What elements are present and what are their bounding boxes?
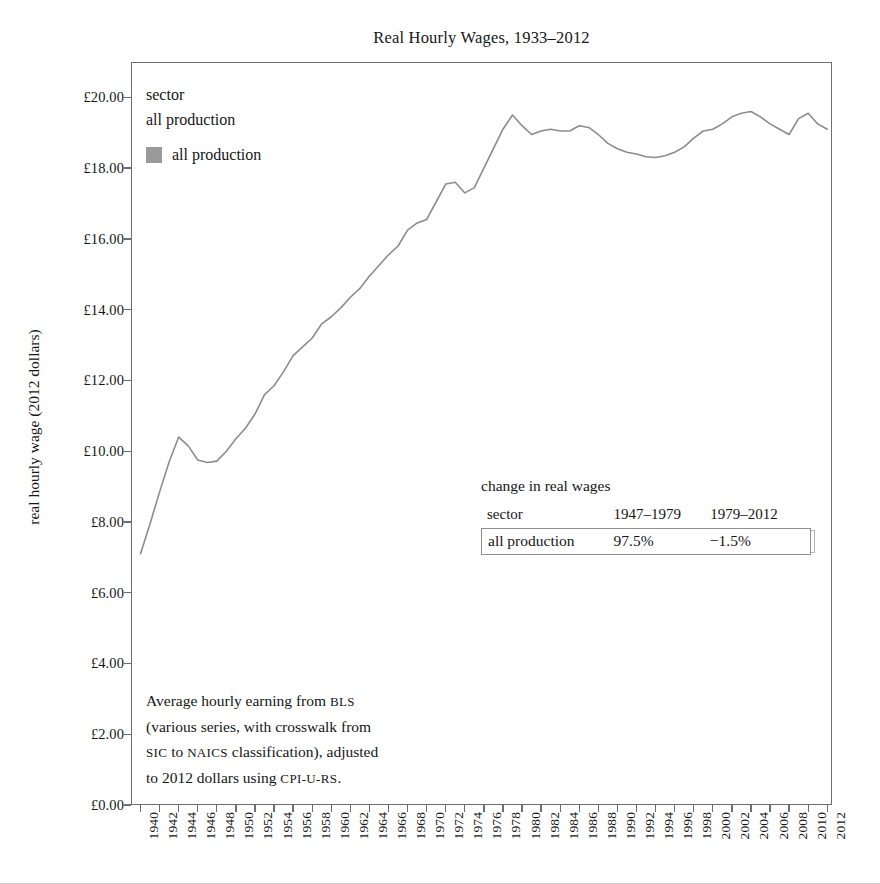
y-tick-mark <box>124 592 131 593</box>
change-table-title: change in real wages <box>481 477 811 495</box>
x-tick-label: 1968 <box>413 812 429 839</box>
x-tick-label: 1940 <box>146 812 162 839</box>
change-table-cell-period-1: 97.5% <box>614 532 710 550</box>
x-tick-mark <box>540 805 541 812</box>
x-tick-label: 1956 <box>299 812 315 839</box>
x-tick-label: 1958 <box>318 812 334 839</box>
y-tick-mark <box>124 380 131 381</box>
y-tick-label: £10.00 <box>46 443 124 460</box>
x-tick-label: 1960 <box>337 812 353 839</box>
y-tick-label: £16.00 <box>46 230 124 247</box>
y-tick-mark <box>124 663 131 664</box>
x-tick-label: 1972 <box>451 812 467 839</box>
y-tick-mark <box>124 309 131 310</box>
source-note-abbr-cpiurs: CPI-U-RS <box>280 771 337 786</box>
y-tick-label: £0.00 <box>46 797 124 814</box>
y-tick-label: £2.00 <box>46 726 124 743</box>
source-note-abbr-bls: BLS <box>330 694 355 709</box>
x-tick-label: 1992 <box>642 812 658 839</box>
x-tick-mark <box>712 805 713 812</box>
source-note-line-3: SIC to NAICS classification), adjusted <box>146 739 496 765</box>
x-tick-label: 1984 <box>566 812 582 839</box>
y-tick-label: £18.00 <box>46 160 124 177</box>
y-tick-label: £14.00 <box>46 301 124 318</box>
x-tick-label: 2008 <box>795 812 811 839</box>
source-note: Average hourly earning from BLS (various… <box>146 688 496 791</box>
x-tick-label: 1980 <box>528 812 544 839</box>
legend-item-all-production[interactable]: all production <box>146 146 406 164</box>
x-tick-mark <box>254 805 255 812</box>
x-tick-mark <box>445 805 446 812</box>
y-tick-mark <box>124 521 131 522</box>
y-tick-label: £8.00 <box>46 513 124 530</box>
x-tick-mark <box>140 805 141 812</box>
y-tick-label: £4.00 <box>46 655 124 672</box>
y-tick-label: £12.00 <box>46 372 124 389</box>
x-tick-label: 1950 <box>241 812 257 839</box>
x-tick-mark <box>693 805 694 812</box>
source-note-line-1: Average hourly earning from BLS <box>146 688 496 714</box>
x-tick-label: 1978 <box>508 812 524 839</box>
x-tick-mark <box>369 805 370 812</box>
x-tick-mark <box>636 805 637 812</box>
x-tick-label: 1970 <box>432 812 448 839</box>
x-tick-mark <box>426 805 427 812</box>
x-tick-label: 1986 <box>585 812 601 839</box>
x-tick-mark <box>674 805 675 812</box>
x-tick-mark <box>331 805 332 812</box>
x-tick-mark <box>560 805 561 812</box>
x-tick-label: 1988 <box>604 812 620 839</box>
y-tick-label: £20.00 <box>46 89 124 106</box>
source-note-line-3-text: classification), adjusted <box>228 743 378 760</box>
x-tick-label: 1948 <box>222 812 238 839</box>
x-tick-mark <box>312 805 313 812</box>
chart-title: Real Hourly Wages, 1933–2012 <box>131 28 832 48</box>
change-table-cell-sector: all production <box>488 532 614 550</box>
x-tick-mark <box>598 805 599 812</box>
x-tick-label: 1952 <box>260 812 276 839</box>
x-tick-mark <box>788 805 789 812</box>
x-tick-label: 2012 <box>833 812 849 839</box>
y-axis-tick-labels: £0.00£2.00£4.00£6.00£8.00£10.00£12.00£14… <box>42 62 124 805</box>
x-tick-label: 1976 <box>489 812 505 839</box>
x-tick-label: 1964 <box>375 812 391 839</box>
x-tick-label: 1982 <box>547 812 563 839</box>
x-tick-mark <box>502 805 503 812</box>
x-tick-label: 2004 <box>756 812 772 839</box>
change-table-header-period-2: 1979–2012 <box>710 506 805 523</box>
x-tick-mark <box>292 805 293 812</box>
source-note-line-4: to 2012 dollars using CPI-U-RS. <box>146 765 496 791</box>
legend-item-label: all production <box>172 146 261 164</box>
source-note-abbr-sic: SIC <box>146 745 167 760</box>
source-note-line-4-text: to 2012 dollars using <box>146 769 280 786</box>
change-table-row[interactable]: all production 97.5% −1.5% <box>481 528 811 555</box>
x-tick-mark <box>655 805 656 812</box>
x-tick-mark <box>388 805 389 812</box>
x-tick-mark <box>159 805 160 812</box>
change-table-header-period-1: 1947–1979 <box>613 506 710 523</box>
legend: sector all production all production <box>146 82 406 164</box>
x-tick-mark <box>178 805 179 812</box>
legend-color-swatch-icon <box>146 147 162 163</box>
x-tick-mark <box>769 805 770 812</box>
x-tick-label: 1942 <box>165 812 181 839</box>
x-tick-label: 1944 <box>184 812 200 839</box>
change-table-cell-period-2: −1.5% <box>710 532 804 550</box>
x-tick-mark <box>216 805 217 812</box>
x-tick-mark <box>750 805 751 812</box>
x-tick-mark <box>407 805 408 812</box>
x-tick-label: 2010 <box>814 812 830 839</box>
y-tick-label: £6.00 <box>46 584 124 601</box>
chart-figure: Real Hourly Wages, 1933–2012 real hourly… <box>0 0 880 884</box>
x-tick-mark <box>197 805 198 812</box>
x-tick-label: 1990 <box>623 812 639 839</box>
legend-header-value: all production <box>146 107 406 132</box>
source-note-line-2: (various series, with crosswalk from <box>146 714 496 739</box>
x-tick-mark <box>235 805 236 812</box>
x-tick-label: 1966 <box>394 812 410 839</box>
x-axis-tick-labels: 1940194219441946194819501952195419561958… <box>131 812 832 878</box>
x-tick-mark <box>579 805 580 812</box>
x-tick-label: 2000 <box>718 812 734 839</box>
y-tick-mark <box>124 238 131 239</box>
x-tick-mark <box>617 805 618 812</box>
